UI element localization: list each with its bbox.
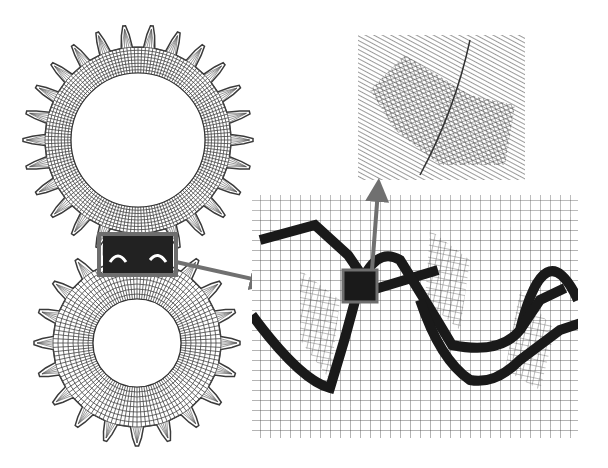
contact-detail-box xyxy=(343,270,377,302)
contact-region xyxy=(103,236,173,273)
detail-inset xyxy=(358,35,525,180)
upper-gear xyxy=(23,26,253,255)
figure-canvas xyxy=(0,0,608,468)
zoom-panel xyxy=(252,195,590,440)
gear-mesh-figure xyxy=(0,0,608,468)
